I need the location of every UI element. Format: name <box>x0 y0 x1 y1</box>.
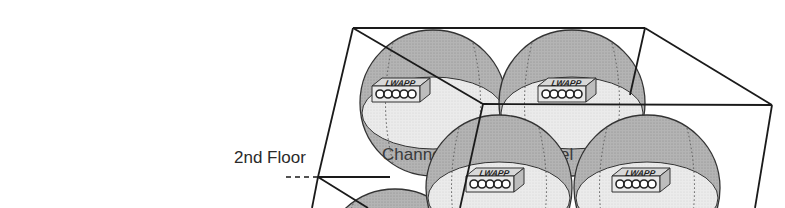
svg-text:LWAPP: LWAPP <box>385 78 417 88</box>
wireless-coverage-diagram: LWAPP LWAPP Channel Channel LWAPP LWAPP … <box>0 0 785 208</box>
lwapp-access-point-4: LWAPP <box>612 168 670 192</box>
floor-label: 2nd Floor <box>234 148 306 167</box>
svg-text:LWAPP: LWAPP <box>551 78 583 88</box>
lwapp-access-point-1: LWAPP <box>372 78 430 102</box>
svg-text:LWAPP: LWAPP <box>625 168 657 178</box>
svg-text:LWAPP: LWAPP <box>479 168 511 178</box>
lwapp-access-point-3: LWAPP <box>466 168 524 192</box>
lwapp-access-point-2: LWAPP <box>538 78 596 102</box>
